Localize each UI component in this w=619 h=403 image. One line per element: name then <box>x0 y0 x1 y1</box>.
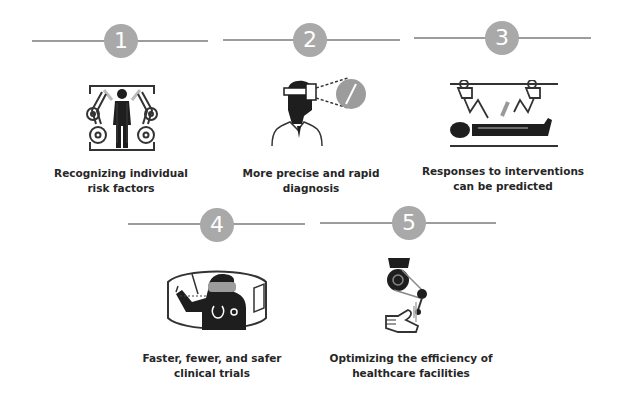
robot-arms-scanning-person-icon <box>82 80 162 156</box>
step-caption: Optimizing the efficiency of healthcare … <box>330 351 493 381</box>
doctor-virtual-environment-icon <box>162 268 272 336</box>
step-number-badge: 1 <box>104 24 138 58</box>
step-number-badge: 3 <box>485 21 519 55</box>
step-caption: Recognizing individual risk factors <box>54 166 188 196</box>
robotic-hand-icon <box>380 256 440 336</box>
step-caption: More precise and rapid diagnosis <box>243 166 380 196</box>
step-caption: Faster, fewer, and safer clinical trials <box>142 351 281 381</box>
step-caption: Responses to interventions can be predic… <box>422 164 584 194</box>
step-number-badge: 5 <box>392 206 426 240</box>
surgical-robot-patient-icon <box>448 80 560 152</box>
step-number-badge: 4 <box>200 208 234 242</box>
step-number-badge: 2 <box>293 23 327 57</box>
doctor-vr-headset-icon <box>268 76 368 148</box>
